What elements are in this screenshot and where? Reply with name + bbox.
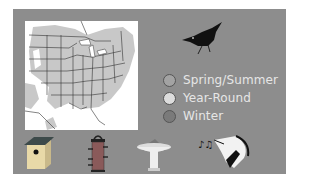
winter-swatch-icon <box>163 110 176 123</box>
svg-text:♪♫: ♪♫ <box>198 139 213 150</box>
bird-song-icon: ♪♫ <box>196 132 252 176</box>
birdhouse-icon <box>22 135 56 175</box>
tube-feeder-icon <box>86 133 110 179</box>
year-round-swatch-icon <box>163 92 176 105</box>
legend-item-winter: Winter <box>163 107 278 125</box>
spring-summer-swatch-icon <box>163 74 176 87</box>
birdbath-icon <box>135 135 173 177</box>
season-legend: Spring/Summer Year-Round Winter <box>163 71 278 125</box>
legend-label: Spring/Summer <box>183 73 278 87</box>
range-map <box>25 21 138 130</box>
legend-label: Year-Round <box>183 91 251 105</box>
legend-item-spring-summer: Spring/Summer <box>163 71 278 89</box>
legend-label: Winter <box>183 109 223 123</box>
legend-item-year-round: Year-Round <box>163 89 278 107</box>
bird-silhouette-icon <box>180 22 226 60</box>
